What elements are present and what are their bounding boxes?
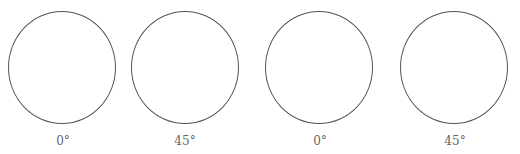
circle-2 (131, 11, 239, 124)
circle-4 (400, 11, 508, 124)
angle-label-2: 45° (155, 134, 215, 148)
circle-3 (265, 11, 373, 124)
angle-label-1: 0° (33, 134, 93, 148)
angle-label-4: 45° (425, 134, 485, 148)
circle-1 (8, 11, 116, 124)
circle-diagram: 0° 45° 0° 45° (0, 0, 520, 154)
angle-label-3: 0° (290, 134, 350, 148)
